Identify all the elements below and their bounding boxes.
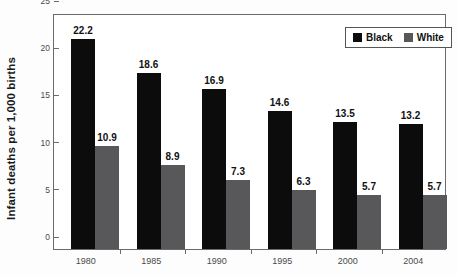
bar-rect [202, 89, 226, 249]
bar-rect [137, 73, 161, 249]
y-axis-tick-label: 20 [41, 43, 54, 53]
bar-black-2004: 13.2 [399, 15, 423, 249]
plot-inner: 051015202522.210.918.68.916.97.314.66.31… [54, 15, 445, 249]
bar-rect [423, 195, 447, 249]
x-axis-label-2000: 2000 [338, 256, 358, 266]
y-axis-tick: 10 [41, 137, 54, 149]
bar-black-2000: 13.5 [333, 15, 357, 249]
y-axis-tick-label: 10 [41, 138, 54, 148]
bar-rect [226, 180, 250, 249]
bar-group: 13.25.7 [399, 15, 447, 249]
bar-group: 18.68.9 [137, 15, 185, 249]
bar-white-1990: 7.3 [226, 15, 250, 249]
bar-value-label: 10.9 [97, 133, 116, 143]
bar-black-1990: 16.9 [202, 15, 226, 249]
legend-item-black: Black [353, 32, 393, 43]
x-axis-tick-mark [316, 249, 317, 254]
y-axis-tick-mark [54, 189, 59, 190]
bar-white-1980: 10.9 [95, 15, 119, 249]
y-axis-tick: 15 [41, 89, 54, 101]
bar-rect [333, 122, 357, 249]
x-axis-tick-mark [382, 249, 383, 254]
bar-rect [399, 124, 423, 249]
x-axis-label-1995: 1995 [272, 256, 292, 266]
bar-black-1980: 22.2 [71, 15, 95, 249]
bar-value-label: 18.6 [139, 60, 158, 70]
bar-value-label: 13.2 [401, 111, 420, 121]
bar-value-label: 5.7 [362, 182, 376, 192]
y-axis-tick-mark [54, 95, 59, 96]
x-axis-label-1985: 1985 [141, 256, 161, 266]
y-axis-tick: 20 [41, 42, 54, 54]
x-axis-tick-mark [251, 249, 252, 254]
bar-value-label: 14.6 [270, 98, 289, 108]
x-axis-label-2004: 2004 [403, 256, 423, 266]
bar-rect [95, 146, 119, 249]
bar-value-label: 5.7 [428, 182, 442, 192]
bar-value-label: 8.9 [166, 152, 180, 162]
legend-item-white: White [404, 32, 444, 43]
x-axis-label-1980: 1980 [76, 256, 96, 266]
x-axis-tick-mark [185, 249, 186, 254]
y-axis-tick-mark [54, 237, 59, 238]
y-axis-tick: 0 [45, 231, 54, 243]
bar-value-label: 16.9 [204, 76, 223, 86]
legend-label-black: Black [366, 32, 393, 43]
gray-swatch-icon [404, 33, 413, 42]
bar-black-1985: 18.6 [137, 15, 161, 249]
bar-value-label: 22.2 [73, 26, 92, 36]
bar-white-2000: 5.7 [357, 15, 381, 249]
bar-group: 22.210.9 [71, 15, 119, 249]
bar-rect [357, 195, 381, 249]
bar-white-1985: 8.9 [161, 15, 185, 249]
bar-group: 14.66.3 [268, 15, 316, 249]
y-axis-tick: 5 [45, 184, 54, 196]
bar-rect [292, 190, 316, 249]
y-axis-tick-label: 25 [41, 0, 54, 6]
plot-area: 051015202522.210.918.68.916.97.314.66.31… [53, 14, 446, 250]
legend-label-white: White [417, 32, 444, 43]
y-axis-tick: 25 [41, 0, 54, 7]
chart-legend: Black White [345, 27, 452, 48]
black-swatch-icon [353, 33, 362, 42]
y-axis-tick-mark [54, 142, 59, 143]
bar-value-label: 7.3 [231, 167, 245, 177]
bar-white-2004: 5.7 [423, 15, 447, 249]
y-axis-tick-mark [54, 1, 59, 2]
bar-value-label: 6.3 [297, 177, 311, 187]
bar-white-1995: 6.3 [292, 15, 316, 249]
y-axis-tick-label: 5 [45, 185, 54, 195]
bar-rect [161, 165, 185, 249]
bar-group: 16.97.3 [202, 15, 250, 249]
y-axis-tick-label: 0 [45, 232, 54, 242]
bar-value-label: 13.5 [335, 109, 354, 119]
y-axis-tick-mark [54, 48, 59, 49]
bar-rect [268, 111, 292, 249]
bar-group: 13.55.7 [333, 15, 381, 249]
y-axis-title: Infant deaths per 1,000 births [0, 0, 22, 277]
chart-figure: Infant deaths per 1,000 births 051015202… [0, 0, 457, 277]
x-axis-label-1990: 1990 [207, 256, 227, 266]
y-axis-tick-label: 15 [41, 90, 54, 100]
bar-black-1995: 14.6 [268, 15, 292, 249]
bar-rect [71, 39, 95, 249]
x-axis-tick-mark [120, 249, 121, 254]
